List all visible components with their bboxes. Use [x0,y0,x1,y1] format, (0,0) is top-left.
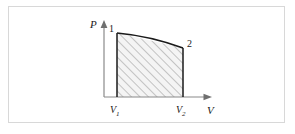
x-tick-v2-subscript: 2 [182,110,186,118]
v-axis-label: V [207,104,215,116]
pv-diagram-plot: P V V1 V2 1 2 [0,0,295,134]
x-tick-label-v1: V1 [110,104,120,118]
x-tick-v1-subscript: 1 [116,110,120,118]
figure-root: P V V1 V2 1 2 [0,0,295,134]
p-axis-label: P [89,18,97,30]
work-area-hatched-region [117,33,183,97]
state-point-label-2: 2 [187,38,192,49]
p-axis-arrowhead-icon [101,20,108,28]
x-tick-label-v2: V2 [176,104,186,118]
state-point-label-1: 1 [109,23,114,34]
v-axis-arrowhead-icon [204,94,213,101]
